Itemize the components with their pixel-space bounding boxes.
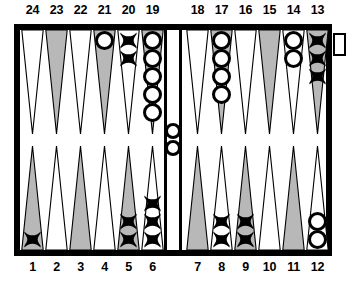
point-number-21: 21	[94, 2, 116, 18]
point-triangle	[21, 30, 44, 134]
point-12[interactable]	[306, 146, 329, 250]
point-1[interactable]	[21, 146, 44, 250]
checker-o[interactable]	[143, 103, 162, 122]
point-triangle	[258, 30, 281, 134]
point-number-6: 6	[142, 259, 164, 275]
point-triangle	[234, 30, 257, 134]
board-felt	[20, 30, 326, 250]
checker-o[interactable]	[143, 85, 162, 104]
point-number-16: 16	[235, 2, 257, 18]
checker-x[interactable]	[308, 31, 327, 50]
point-triangle	[186, 30, 209, 134]
point-number-7: 7	[187, 259, 209, 275]
point-number-18: 18	[187, 2, 209, 18]
point-3[interactable]	[69, 146, 92, 250]
point-number-15: 15	[259, 2, 281, 18]
point-number-1: 1	[22, 259, 44, 275]
point-number-22: 22	[70, 2, 92, 18]
checker-x[interactable]	[236, 212, 255, 231]
point-21[interactable]	[93, 30, 116, 134]
point-number-20: 20	[118, 2, 140, 18]
checker-x[interactable]	[119, 212, 138, 231]
checker-x[interactable]	[119, 230, 138, 249]
checker-x[interactable]	[119, 49, 138, 68]
point-number-24: 24	[22, 2, 44, 18]
point-17[interactable]	[210, 30, 233, 134]
point-numbers-top: 242322212019181716151413	[0, 2, 346, 22]
point-20[interactable]	[117, 30, 140, 134]
checker-o[interactable]	[212, 49, 231, 68]
checker-x[interactable]	[143, 194, 162, 213]
point-number-8: 8	[211, 259, 233, 275]
checker-o[interactable]	[143, 67, 162, 86]
checker-o[interactable]	[284, 49, 303, 68]
point-number-17: 17	[211, 2, 233, 18]
point-number-23: 23	[46, 2, 68, 18]
checker-x[interactable]	[143, 230, 162, 249]
point-13[interactable]	[306, 30, 329, 134]
point-22[interactable]	[69, 30, 92, 134]
point-15[interactable]	[258, 30, 281, 134]
point-triangle	[69, 30, 92, 134]
bearoff-tray[interactable]	[333, 33, 346, 56]
checker-x[interactable]	[119, 31, 138, 50]
checker-o[interactable]	[308, 230, 327, 249]
point-triangle	[282, 146, 305, 250]
point-number-19: 19	[142, 2, 164, 18]
point-number-10: 10	[259, 259, 281, 275]
point-19[interactable]	[141, 30, 164, 134]
checker-x[interactable]	[23, 230, 42, 249]
point-triangle	[45, 146, 68, 250]
point-triangle	[186, 146, 209, 250]
checker-o[interactable]	[212, 31, 231, 50]
checker-x[interactable]	[236, 230, 255, 249]
point-2[interactable]	[45, 146, 68, 250]
checker-x[interactable]	[308, 49, 327, 68]
backgammon-diagram: 242322212019181716151413 123456789101112	[0, 0, 346, 281]
point-14[interactable]	[282, 30, 305, 134]
point-11[interactable]	[282, 146, 305, 250]
checker-o[interactable]	[143, 31, 162, 50]
point-5[interactable]	[117, 146, 140, 250]
checker-o[interactable]	[212, 85, 231, 104]
point-24[interactable]	[21, 30, 44, 134]
point-number-5: 5	[118, 259, 140, 275]
point-triangle	[93, 146, 116, 250]
bar-checker-o[interactable]	[165, 123, 181, 139]
point-4[interactable]	[93, 146, 116, 250]
point-number-2: 2	[46, 259, 68, 275]
point-number-11: 11	[283, 259, 305, 275]
checker-x[interactable]	[212, 230, 231, 249]
checker-o[interactable]	[95, 31, 114, 50]
point-16[interactable]	[234, 30, 257, 134]
point-number-13: 13	[307, 2, 329, 18]
point-number-3: 3	[70, 259, 92, 275]
point-7[interactable]	[186, 146, 209, 250]
point-9[interactable]	[234, 146, 257, 250]
checker-o[interactable]	[284, 31, 303, 50]
point-triangle	[258, 146, 281, 250]
point-8[interactable]	[210, 146, 233, 250]
checker-o[interactable]	[308, 212, 327, 231]
checker-x[interactable]	[143, 212, 162, 231]
bar-checker-o[interactable]	[165, 140, 181, 156]
checker-x[interactable]	[308, 67, 327, 86]
checker-o[interactable]	[143, 49, 162, 68]
point-23[interactable]	[45, 30, 68, 134]
point-number-14: 14	[283, 2, 305, 18]
point-triangle	[69, 146, 92, 250]
point-triangle	[45, 30, 68, 134]
point-number-12: 12	[307, 259, 329, 275]
checker-o[interactable]	[212, 67, 231, 86]
point-number-4: 4	[94, 259, 116, 275]
board-frame	[14, 24, 332, 256]
point-10[interactable]	[258, 146, 281, 250]
point-number-9: 9	[235, 259, 257, 275]
point-numbers-bottom: 123456789101112	[0, 259, 346, 279]
point-6[interactable]	[141, 146, 164, 250]
checker-x[interactable]	[212, 212, 231, 231]
point-18[interactable]	[186, 30, 209, 134]
center-bar[interactable]	[164, 30, 182, 250]
